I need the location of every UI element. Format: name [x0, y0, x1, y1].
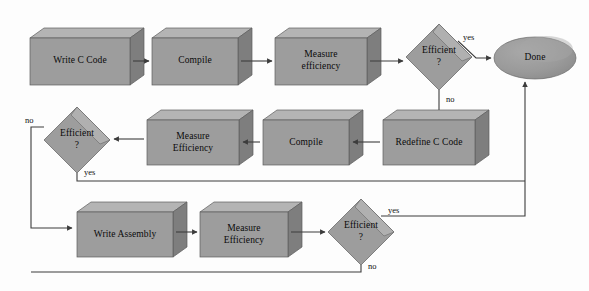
edge-label-bottom-no: no — [368, 262, 377, 271]
edge-label-top-yes: yes — [463, 33, 474, 42]
edge-label-mid-no: no — [25, 116, 34, 125]
edge-label-bottom-yes: yes — [388, 206, 399, 215]
edge-label-top-no: no — [446, 95, 455, 104]
edge-bottom-no-loop — [31, 265, 361, 272]
node-compile-mid[interactable] — [263, 110, 363, 165]
edge-mid-yes-to-done — [77, 173, 525, 181]
node-measure-efficiency-top[interactable] — [275, 28, 381, 85]
node-write-assembly[interactable] — [77, 202, 187, 257]
node-measure-efficiency-bottom[interactable] — [200, 202, 302, 257]
flowchart-canvas: Write C Code Compile Measure efficiency … — [0, 0, 589, 291]
node-measure-efficiency-mid[interactable] — [147, 110, 253, 165]
node-compile-top[interactable] — [152, 28, 252, 85]
node-efficient-bottom[interactable] — [328, 199, 394, 265]
node-write-c-code[interactable] — [30, 28, 144, 85]
node-redefine-c-code[interactable] — [383, 110, 489, 165]
edge-label-mid-yes: yes — [84, 168, 95, 177]
flowchart-graphics — [0, 0, 589, 291]
node-done[interactable] — [494, 36, 576, 79]
node-efficient-mid[interactable] — [44, 107, 110, 173]
